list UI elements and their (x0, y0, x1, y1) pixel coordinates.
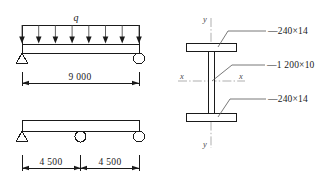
web (208, 51, 214, 113)
dim-arrow-mid-right (81, 166, 88, 170)
load-arrow (36, 25, 42, 44)
dimension-label-left-span: 4 500 (40, 157, 63, 167)
top-beam-diagram: q 9 000 (17, 12, 145, 86)
dim-arrow-right (132, 81, 139, 85)
figure-canvas: q 9 000 (0, 0, 334, 184)
dimension-4500-group: 4 500 4 500 (22, 155, 139, 171)
axis-label-x-left: x (179, 71, 184, 81)
load-arrow (103, 25, 109, 44)
i-section-diagram: y y x x —240×14 —1 200×10 —240×14 (178, 14, 315, 149)
bottom-flange (186, 113, 236, 121)
roller-support-right (134, 53, 145, 64)
roller-support-right-2 (134, 131, 145, 142)
callout-label-web: —1 200×10 (266, 60, 315, 70)
top-flange (186, 43, 236, 51)
dimension-label-span: 9 000 (69, 72, 92, 82)
dim-arrow-right-2 (132, 166, 139, 170)
axis-label-y-bottom: y (202, 139, 207, 149)
callout-label-bottom-flange: —240×14 (267, 94, 308, 104)
bottom-beam-diagram: 4 500 4 500 (17, 120, 145, 171)
pin-support-left-2 (17, 131, 28, 141)
dimension-9000: 9 000 (22, 72, 139, 86)
load-arrow (136, 25, 142, 44)
load-arrow (86, 25, 92, 44)
load-arrow-group (19, 25, 142, 44)
load-label-q: q (74, 12, 79, 23)
roller-support-middle (75, 131, 86, 142)
load-arrow (53, 25, 59, 44)
pin-support-left (17, 53, 28, 63)
engineering-figure: q 9 000 (0, 0, 334, 184)
dim-arrow-left-2 (22, 166, 29, 170)
load-arrow (19, 25, 25, 44)
callout-web: —1 200×10 (212, 60, 315, 81)
dim-arrow-mid-left (74, 166, 81, 170)
axis-label-x-right: x (238, 71, 243, 81)
axis-label-y-top: y (202, 14, 207, 24)
dimension-label-right-span: 4 500 (99, 157, 122, 167)
beam-body (22, 120, 139, 131)
callout-label-top-flange: —240×14 (267, 26, 308, 36)
dim-arrow-left (22, 81, 29, 85)
load-arrow (69, 25, 75, 44)
load-arrow (119, 25, 125, 44)
